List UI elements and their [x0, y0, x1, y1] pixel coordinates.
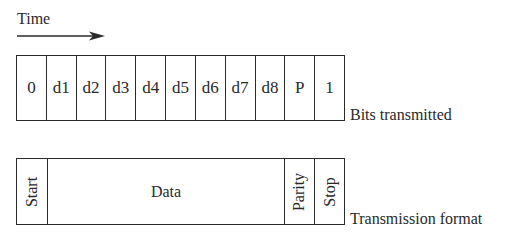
bit-cell-d6: d6: [196, 56, 226, 120]
bit-cell-d8: d8: [256, 56, 286, 120]
data-label: Data: [151, 183, 181, 201]
bit-cell-d5: d5: [166, 56, 196, 120]
bit-cell-d2: d2: [77, 56, 107, 120]
data-field: Data: [48, 159, 285, 224]
bit-cell-d1: d1: [47, 56, 77, 120]
parity-label: Parity: [291, 172, 309, 210]
bits-transmitted-caption: Bits transmitted: [350, 105, 452, 125]
bit-cell-d7: d7: [226, 56, 256, 120]
transmission-format-row: Start Data Parity Stop: [16, 158, 345, 225]
bit-cell-d3: d3: [106, 56, 136, 120]
bit-cell-stop: 1: [315, 56, 344, 120]
time-label: Time: [17, 9, 50, 29]
start-label: Start: [23, 176, 41, 206]
bit-cell-d4: d4: [136, 56, 166, 120]
transmission-format-caption: Transmission format: [350, 209, 482, 229]
stop-label: Stop: [321, 177, 339, 206]
stop-field: Stop: [315, 159, 344, 224]
bits-transmitted-row: 0 d1 d2 d3 d4 d5 d6 d7 d8 P 1: [16, 55, 345, 121]
start-field: Start: [17, 159, 48, 224]
right-arrow-icon: [17, 30, 107, 42]
bit-cell-parity: P: [285, 56, 315, 120]
bit-cell-start: 0: [17, 56, 47, 120]
parity-field: Parity: [285, 159, 315, 224]
